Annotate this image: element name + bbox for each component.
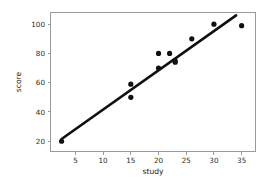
- y-axis-label: score: [14, 71, 23, 92]
- x-tick-label-30: 30: [209, 156, 219, 165]
- x-tick-label-15: 15: [126, 156, 135, 165]
- axes-background: [50, 12, 256, 152]
- y-tick-label-20: 20: [36, 137, 46, 146]
- data-point-1: [128, 82, 133, 87]
- data-point-8: [189, 36, 194, 41]
- data-point-2: [128, 95, 133, 100]
- data-point-3: [156, 51, 161, 56]
- x-tick-label-10: 10: [99, 156, 109, 165]
- x-tick-label-20: 20: [154, 156, 164, 165]
- data-point-0: [59, 139, 64, 144]
- scatter-plot: 510152025303520406080100 study score: [0, 0, 270, 183]
- x-axis-label: study: [142, 167, 164, 176]
- y-tick-label-60: 60: [36, 78, 46, 87]
- data-point-5: [167, 51, 172, 56]
- x-tick-label-35: 35: [237, 156, 246, 165]
- data-point-10: [239, 23, 244, 28]
- x-tick-label-5: 5: [73, 156, 78, 165]
- data-point-7: [173, 60, 178, 65]
- x-tick-label-25: 25: [182, 156, 191, 165]
- data-point-4: [156, 66, 161, 71]
- y-tick-label-80: 80: [36, 49, 46, 58]
- y-tick-label-100: 100: [31, 20, 45, 29]
- y-tick-label-40: 40: [36, 108, 46, 117]
- figure-canvas: 510152025303520406080100 study score: [0, 0, 270, 183]
- data-point-9: [211, 22, 216, 27]
